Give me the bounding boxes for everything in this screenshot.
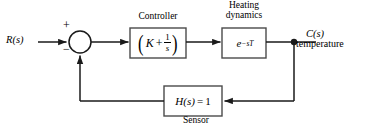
output-label-group: C(s) temperature: [306, 28, 344, 50]
controller-close-paren: ): [172, 32, 178, 55]
controller-open-paren: (: [138, 32, 144, 55]
plant-expression: e−sT: [224, 30, 266, 56]
controller-caption: Controller: [130, 12, 186, 22]
summing-junction-minus-sign: −: [63, 43, 70, 56]
controller-fraction-denominator: s: [165, 44, 171, 53]
sensor-expression: H(s) = 1: [164, 88, 222, 114]
plant-caption: Heating dynamics: [216, 1, 272, 21]
controller-fraction-numerator: 1: [164, 33, 171, 42]
control-block-diagram: R(s) C(s) temperature + − Controller Hea…: [0, 0, 372, 136]
sensor-value: 1: [205, 95, 211, 107]
reference-input-label: R(s): [6, 34, 24, 45]
controller-operator: +: [155, 36, 164, 51]
plant-caption-line2: dynamics: [216, 11, 272, 21]
sensor-transfer-function: H(s): [175, 95, 195, 107]
summing-junction-circle: [69, 31, 91, 53]
plant-expression-exponent: −sT: [241, 39, 253, 48]
controller-fraction: 1 s: [164, 33, 171, 53]
controller-gain-symbol: K: [145, 36, 155, 51]
output-signal-sublabel: temperature: [296, 39, 344, 50]
controller-expression: ( K + 1 s ): [132, 30, 184, 56]
summing-junction-plus-sign: +: [63, 19, 70, 32]
sensor-caption: Sensor: [166, 116, 226, 126]
sensor-equals-sign: =: [195, 95, 205, 107]
